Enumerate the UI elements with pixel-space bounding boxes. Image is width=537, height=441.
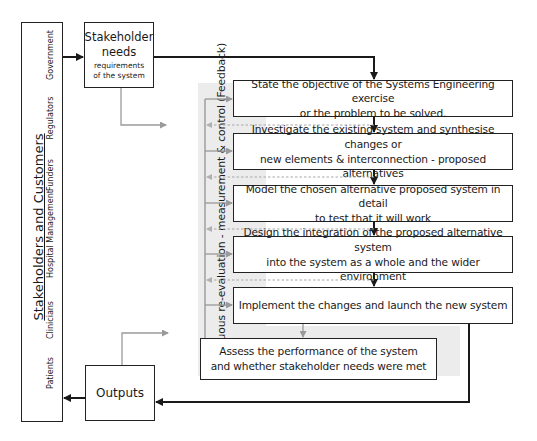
connector-lines: [0, 0, 537, 441]
arrow-implement-to-outputs: [156, 324, 469, 402]
arrow-outputs-to-feedback: [122, 333, 168, 365]
arrow-needs-to-feedback: [121, 88, 166, 125]
arrow-needs-to-step1: [154, 57, 374, 79]
